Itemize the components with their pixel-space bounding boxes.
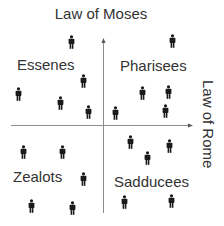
person-icon — [121, 195, 128, 209]
person-icon — [165, 85, 172, 99]
person-icon — [80, 172, 87, 186]
vertical-axis-arrow-icon — [102, 38, 106, 43]
person-icon — [80, 74, 87, 88]
person-icon — [28, 199, 35, 213]
person-icon — [162, 104, 169, 118]
person-icon — [59, 145, 66, 159]
person-icon — [85, 105, 92, 119]
quadrant-label-pharisees: Pharisees — [120, 57, 187, 75]
person-icon — [139, 86, 146, 100]
person-icon — [68, 35, 75, 49]
person-icon — [15, 87, 22, 101]
person-icon — [112, 106, 119, 120]
person-icon — [127, 135, 134, 149]
quadrant-label-sadducees: Sadducees — [114, 173, 189, 191]
quadrant-label-zealots: Zealots — [13, 168, 62, 186]
person-icon — [144, 151, 151, 165]
person-icon — [20, 145, 27, 159]
horizontal-axis-arrow-icon — [188, 124, 193, 128]
person-icon — [69, 201, 76, 215]
person-icon — [57, 96, 64, 110]
quadrant-label-essenes: Essenes — [17, 56, 75, 74]
quadrant-diagram: Law of Moses Law of Rome Essenes Pharise… — [0, 0, 224, 226]
person-icon — [166, 139, 173, 153]
person-icon — [169, 34, 176, 48]
person-icon — [168, 194, 175, 208]
